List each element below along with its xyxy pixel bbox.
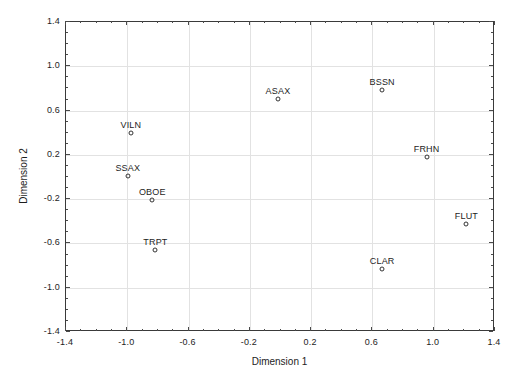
y-tick-major bbox=[66, 154, 70, 155]
y-tick-label: 0.6 bbox=[27, 105, 60, 115]
data-point-marker bbox=[380, 87, 385, 92]
y-tick-minor bbox=[66, 220, 68, 221]
x-tick-label: -0.6 bbox=[179, 337, 195, 347]
x-tick-minor-top bbox=[218, 21, 219, 23]
data-point-marker bbox=[275, 96, 280, 101]
x-tick-minor-top bbox=[479, 21, 480, 23]
data-point[interactable]: SSAX bbox=[125, 174, 130, 179]
y-tick-minor bbox=[66, 309, 68, 310]
y-tick-label: -1.4 bbox=[27, 326, 60, 336]
y-tick-minor-right bbox=[491, 309, 493, 310]
y-tick-minor-right bbox=[491, 231, 493, 232]
y-tick-minor bbox=[66, 276, 68, 277]
y-tick-label: 1.0 bbox=[27, 60, 60, 70]
gridline-vertical bbox=[250, 22, 251, 330]
x-tick-minor-top bbox=[295, 21, 296, 23]
x-tick-minor bbox=[203, 329, 204, 331]
data-point[interactable]: FLUT bbox=[464, 221, 469, 226]
x-tick-minor bbox=[157, 329, 158, 331]
y-tick-major-right bbox=[489, 21, 493, 22]
y-tick-major-right bbox=[489, 110, 493, 111]
y-tick-minor-right bbox=[491, 176, 493, 177]
x-tick-minor bbox=[172, 329, 173, 331]
x-tick-minor bbox=[463, 329, 464, 331]
y-tick-minor bbox=[66, 176, 68, 177]
y-tick-major-right bbox=[489, 154, 493, 155]
data-point[interactable]: OBOE bbox=[150, 198, 155, 203]
x-tick-minor bbox=[280, 329, 281, 331]
x-tick-minor bbox=[234, 329, 235, 331]
x-tick-minor-top bbox=[463, 21, 464, 23]
x-tick-minor bbox=[111, 329, 112, 331]
x-tick-label: -1.4 bbox=[57, 337, 73, 347]
x-tick-minor bbox=[325, 329, 326, 331]
data-point-label: SSAX bbox=[115, 163, 140, 173]
y-tick-minor bbox=[66, 54, 68, 55]
x-tick-minor bbox=[448, 329, 449, 331]
x-tick-minor-top bbox=[157, 21, 158, 23]
x-tick-minor-top bbox=[356, 21, 357, 23]
x-tick-minor bbox=[417, 329, 418, 331]
x-tick-major-top bbox=[188, 21, 189, 25]
y-axis-title: Dimension 2 bbox=[18, 148, 29, 204]
y-tick-minor-right bbox=[491, 32, 493, 33]
y-tick-minor-right bbox=[491, 298, 493, 299]
x-tick-major-top bbox=[494, 21, 495, 25]
data-point-marker bbox=[424, 155, 429, 160]
y-tick-major bbox=[66, 287, 70, 288]
x-tick-minor bbox=[80, 329, 81, 331]
y-tick-major bbox=[66, 110, 70, 111]
y-tick-minor bbox=[66, 121, 68, 122]
data-point-marker bbox=[153, 248, 158, 253]
gridline-horizontal bbox=[66, 66, 493, 67]
y-tick-minor bbox=[66, 32, 68, 33]
y-tick-minor-right bbox=[491, 209, 493, 210]
x-tick-minor bbox=[295, 329, 296, 331]
data-point[interactable]: TRPT bbox=[153, 248, 158, 253]
y-tick-minor bbox=[66, 265, 68, 266]
x-tick-minor-top bbox=[142, 21, 143, 23]
gridline-horizontal bbox=[66, 288, 493, 289]
data-point-marker bbox=[380, 267, 385, 272]
y-tick-minor-right bbox=[491, 220, 493, 221]
y-tick-minor-right bbox=[491, 254, 493, 255]
x-tick-minor-top bbox=[448, 21, 449, 23]
x-tick-minor bbox=[479, 329, 480, 331]
y-tick-minor bbox=[66, 254, 68, 255]
y-tick-major bbox=[66, 331, 70, 332]
x-tick-major-top bbox=[433, 21, 434, 25]
data-point-marker bbox=[128, 130, 133, 135]
x-tick-minor-top bbox=[96, 21, 97, 23]
x-tick-major bbox=[371, 327, 372, 331]
y-tick-major bbox=[66, 21, 70, 22]
x-tick-minor-top bbox=[341, 21, 342, 23]
x-tick-major-top bbox=[310, 21, 311, 25]
y-tick-minor bbox=[66, 231, 68, 232]
y-tick-major-right bbox=[489, 65, 493, 66]
gridline-vertical bbox=[311, 22, 312, 330]
y-tick-minor bbox=[66, 132, 68, 133]
gridline-horizontal bbox=[66, 199, 493, 200]
data-point[interactable]: BSSN bbox=[380, 87, 385, 92]
x-tick-major bbox=[310, 327, 311, 331]
x-tick-minor bbox=[142, 329, 143, 331]
x-tick-major bbox=[433, 327, 434, 331]
data-point[interactable]: VILN bbox=[128, 130, 133, 135]
x-tick-label: 0.2 bbox=[304, 337, 317, 347]
gridline-horizontal bbox=[66, 243, 493, 244]
scatter-chart: -1.4-1.0-0.6-0.20.20.61.01.4-1.4-1.0-0.6… bbox=[0, 0, 519, 381]
x-tick-minor bbox=[356, 329, 357, 331]
y-tick-minor-right bbox=[491, 99, 493, 100]
y-tick-minor-right bbox=[491, 54, 493, 55]
data-point[interactable]: CLAR bbox=[380, 267, 385, 272]
data-point[interactable]: FRHN bbox=[424, 155, 429, 160]
y-tick-major-right bbox=[489, 287, 493, 288]
x-tick-label: 1.4 bbox=[487, 337, 500, 347]
data-point-label: ASAX bbox=[266, 85, 291, 95]
y-tick-major bbox=[66, 65, 70, 66]
x-tick-minor-top bbox=[80, 21, 81, 23]
data-point-label: OBOE bbox=[139, 187, 166, 197]
data-point[interactable]: ASAX bbox=[275, 96, 280, 101]
y-tick-minor bbox=[66, 43, 68, 44]
gridline-vertical bbox=[434, 22, 435, 330]
